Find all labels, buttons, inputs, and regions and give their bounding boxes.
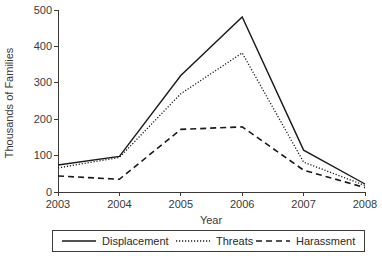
x-tick-label-2006: 2006: [230, 198, 254, 210]
y-axis-title: Thousands of Families: [3, 47, 15, 158]
x-tick-label-2004: 2004: [107, 198, 131, 210]
chart-page: Thousands of Families 500 400 300 200 10…: [0, 0, 382, 256]
y-tick-label-100: 100: [34, 149, 52, 161]
line-chart: Thousands of Families 500 400 300 200 10…: [0, 0, 382, 256]
y-tick-label-200: 200: [34, 113, 52, 125]
y-tick-label-400: 400: [34, 40, 52, 52]
legend-label-threats: Threats: [216, 235, 254, 247]
x-axis-title: Year: [200, 214, 223, 226]
y-tick-label-500: 500: [34, 4, 52, 16]
series-line-harassment: [58, 127, 365, 188]
x-tick-label-2005: 2005: [169, 198, 193, 210]
legend-label-harassment: Harassment: [296, 235, 355, 247]
x-tick-label-2008: 2008: [353, 198, 377, 210]
x-tick-label-2003: 2003: [46, 198, 70, 210]
y-tick-label-300: 300: [34, 76, 52, 88]
y-tick-label-0: 0: [46, 186, 52, 198]
series-line-threats: [58, 53, 365, 186]
legend-label-displacement: Displacement: [102, 235, 169, 247]
series-line-displacement: [58, 17, 365, 184]
x-tick-label-2007: 2007: [291, 198, 315, 210]
